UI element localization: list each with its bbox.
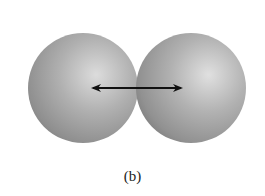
figure-caption: (b) xyxy=(0,168,265,185)
molecule-diagram: (b) xyxy=(0,0,265,196)
molecule-graphic xyxy=(0,0,265,196)
